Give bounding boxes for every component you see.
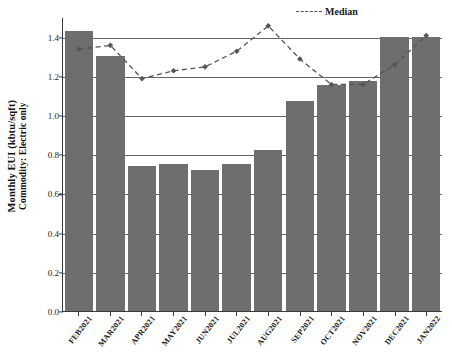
bar xyxy=(380,37,408,311)
x-axis-tick-label: SEP2021 xyxy=(289,314,316,345)
y-axis-tick-label: 1.2 xyxy=(29,72,59,82)
bar xyxy=(317,85,345,311)
x-axis-tick-label: DEC2021 xyxy=(382,314,410,347)
x-axis-tick-mark xyxy=(236,312,237,316)
y-axis-title-sub: Commodity: Electric only xyxy=(18,100,29,213)
x-axis-tick-mark xyxy=(395,312,396,316)
bar-cell xyxy=(63,18,95,311)
chart-container: Monthly EUI (kbtu/sqft) Commodity: Elect… xyxy=(0,0,452,354)
bar-cell xyxy=(158,18,190,311)
y-axis-tick-label: 0.0 xyxy=(29,307,59,317)
x-axis-tick-label: APR2021 xyxy=(129,314,157,346)
y-axis-tick-mark xyxy=(59,76,64,77)
y-axis-tick-label: 1.4 xyxy=(29,33,59,43)
x-axis-tick-label: JUN2021 xyxy=(193,314,220,346)
x-axis-tick-mark xyxy=(141,312,142,316)
bar xyxy=(286,101,314,311)
bar xyxy=(159,164,187,311)
bar-cell xyxy=(95,18,127,311)
x-axis-tick-mark xyxy=(173,312,174,316)
x-axis-tick-mark xyxy=(268,312,269,316)
bar-cell xyxy=(284,18,316,311)
y-axis-tick-mark xyxy=(59,155,64,156)
bar-cell xyxy=(347,18,379,311)
x-axis-tick-mark xyxy=(426,312,427,316)
bar xyxy=(349,81,377,311)
bar-cell xyxy=(379,18,411,311)
bar-cell xyxy=(221,18,253,311)
y-axis-tick-mark xyxy=(59,37,64,38)
x-axis-tick-label: FEB2021 xyxy=(67,314,94,346)
x-axis-tick-label: JAN2022 xyxy=(415,314,442,346)
bar xyxy=(412,37,440,311)
y-axis-tick-mark xyxy=(59,115,64,116)
y-axis-tick-label: 0.2 xyxy=(29,268,59,278)
x-axis-tick-mark xyxy=(331,312,332,316)
y-axis-tick-mark xyxy=(59,194,64,195)
y-axis-tick-label: 0.8 xyxy=(29,150,59,160)
bar xyxy=(128,166,156,311)
bar-series xyxy=(63,18,442,311)
x-axis-tick-mark xyxy=(110,312,111,316)
plot-area: 0.00.20.40.60.81.01.21.4 xyxy=(62,18,442,312)
bar xyxy=(254,150,282,311)
bar-cell xyxy=(410,18,442,311)
median-line-swatch xyxy=(296,11,322,12)
bar-cell xyxy=(126,18,158,311)
bar-cell xyxy=(316,18,348,311)
x-axis-tick-mark xyxy=(78,312,79,316)
x-axis-tick-label: MAY2021 xyxy=(160,314,189,348)
x-axis-tick-label: NOV2021 xyxy=(350,314,379,347)
x-axis-tick-mark xyxy=(300,312,301,316)
x-axis-tick-label: JUL2021 xyxy=(225,314,252,345)
bar-cell xyxy=(189,18,221,311)
bar xyxy=(65,31,93,311)
bar-cell xyxy=(252,18,284,311)
x-axis-tick-label: AUG2021 xyxy=(255,314,284,347)
y-axis-tick-label: 0.6 xyxy=(29,189,59,199)
bar xyxy=(222,164,250,311)
chart-legend: Median xyxy=(296,6,358,17)
y-axis-title-main: Monthly EUI (kbtu/sqft) xyxy=(6,100,18,213)
bar xyxy=(191,170,219,311)
x-axis-tick-label: OCT2021 xyxy=(319,314,347,347)
y-axis-tick-mark xyxy=(59,233,64,234)
bar xyxy=(96,56,124,311)
legend-label-median: Median xyxy=(325,6,358,17)
y-axis-tick-mark xyxy=(59,272,64,273)
y-axis-tick-label: 1.0 xyxy=(29,111,59,121)
x-axis-tick-mark xyxy=(205,312,206,316)
plot-inner xyxy=(63,18,442,311)
x-axis-tick-mark xyxy=(363,312,364,316)
x-axis-labels: FEB2021MAR2021APR2021MAY2021JUN2021JUL20… xyxy=(62,312,442,354)
x-axis-tick-label: MAR2021 xyxy=(96,314,126,348)
y-axis-tick-label: 0.4 xyxy=(29,229,59,239)
